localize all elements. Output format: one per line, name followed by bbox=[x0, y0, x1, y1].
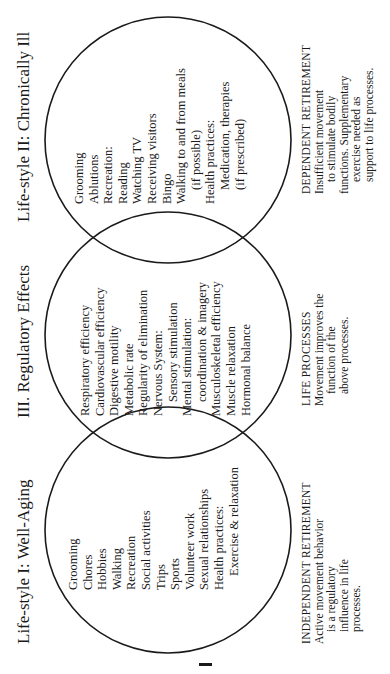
title-lifestyle-1: Life-style I: Well-Aging bbox=[14, 480, 34, 645]
list-item: Muscle relaxation bbox=[224, 281, 239, 416]
list-item: Sensory stimulation bbox=[166, 281, 181, 416]
description-lifestyle-1: INDEPENDENT RETIREMENT Active movement b… bbox=[300, 482, 363, 644]
list-item: Digestive motility bbox=[107, 281, 122, 416]
list-item: Hobbies bbox=[95, 467, 110, 590]
list-item: Recreation bbox=[124, 467, 139, 590]
description-line: Active movement behavior bbox=[313, 482, 326, 644]
list-item: Recreation: bbox=[101, 68, 116, 204]
list-item: Hormonal balance bbox=[239, 281, 254, 416]
description-line: influence in life bbox=[338, 482, 351, 644]
list-item: Exercise & relaxation bbox=[227, 467, 242, 590]
description-line: above processes. bbox=[338, 294, 351, 406]
description-line: processes. bbox=[350, 482, 363, 644]
list-item: Nervous System: bbox=[151, 281, 166, 416]
list-item: Sexual relationships bbox=[197, 467, 212, 590]
list-item: coordination & imagery bbox=[195, 281, 210, 416]
page-mark bbox=[199, 663, 212, 666]
list-item: Sports bbox=[168, 467, 183, 590]
list-item: Chores bbox=[81, 467, 96, 590]
list-item: Musculoskeletal efficiency bbox=[209, 281, 224, 416]
list-item: Social activities bbox=[139, 467, 154, 590]
description-line: functions. Supplementary bbox=[338, 45, 351, 194]
title-lifestyle-2: Life-style II: Chronically Ill bbox=[14, 32, 34, 222]
list-item: Watching TV bbox=[130, 68, 145, 204]
list-item: (if possible) bbox=[189, 68, 204, 204]
list-item: Walking to and from meals bbox=[174, 68, 189, 204]
list-item: Grooming bbox=[66, 467, 81, 590]
list-item: (if prescribed) bbox=[233, 68, 248, 204]
description-line: function of the bbox=[325, 294, 338, 406]
list-item: Ablutions bbox=[87, 68, 102, 204]
description-line: Movement improves the bbox=[313, 294, 326, 406]
description-heading: INDEPENDENT RETIREMENT bbox=[300, 482, 313, 644]
list-item: Bingo bbox=[160, 68, 175, 204]
description-line: support to life processes. bbox=[363, 45, 376, 194]
description-line: to stimulate bodily bbox=[325, 45, 338, 194]
list-item: Walking bbox=[110, 467, 125, 590]
description-line: exercise needed as bbox=[350, 45, 363, 194]
description-lifestyle-2: DEPENDENT RETIREMENT Insufficient moveme… bbox=[300, 45, 376, 194]
list-item: Regularity of elimination bbox=[136, 281, 151, 416]
description-heading: LIFE PROCESSES bbox=[300, 294, 313, 406]
list-lifestyle-2: Grooming Ablutions Recreation: Reading W… bbox=[72, 68, 247, 204]
venn-diagram-page: Life-style I: Well-Aging Grooming Chores… bbox=[0, 0, 390, 674]
list-item: Grooming bbox=[72, 68, 87, 204]
list-item: Trips bbox=[154, 467, 169, 590]
list-regulatory-effects: Respiratory efficiency Cardiovascular ef… bbox=[78, 281, 253, 416]
list-item: Cardiovascular efficiency bbox=[93, 281, 108, 416]
list-lifestyle-1: Grooming Chores Hobbies Walking Recreati… bbox=[66, 467, 241, 590]
list-item: Respiratory efficiency bbox=[78, 281, 93, 416]
list-item: Health practices: bbox=[203, 68, 218, 204]
list-item: Volunteer work bbox=[183, 467, 198, 590]
list-item: Receiving visitors bbox=[145, 68, 160, 204]
description-regulatory-effects: LIFE PROCESSES Movement improves the fun… bbox=[300, 294, 350, 406]
description-line: Insufficient movement bbox=[313, 45, 326, 194]
list-item: Health practices: bbox=[212, 467, 227, 590]
description-heading: DEPENDENT RETIREMENT bbox=[300, 45, 313, 194]
title-regulatory-effects: III. Regulatory Effects bbox=[14, 265, 34, 418]
description-line: is a regulatory bbox=[325, 482, 338, 644]
list-item: Reading bbox=[116, 68, 131, 204]
list-item: Metabolic rate bbox=[122, 281, 137, 416]
list-item: Medication, therapies bbox=[218, 68, 233, 204]
list-item: Mental stimulation: bbox=[180, 281, 195, 416]
